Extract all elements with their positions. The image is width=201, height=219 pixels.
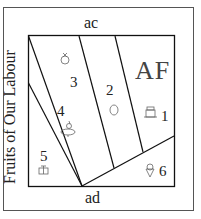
- cake-icon: [144, 107, 157, 117]
- region-number-4: 4: [57, 104, 65, 119]
- region-number-5: 5: [40, 149, 48, 164]
- corner-label: AF: [135, 58, 170, 84]
- lemon-icon: [110, 105, 118, 115]
- seam-line-2: [29, 83, 83, 186]
- ice-cream-icon: [146, 164, 154, 177]
- block-diagram: [0, 0, 201, 219]
- bottom-edge-label: ad: [85, 190, 100, 206]
- seam-line-4: [115, 36, 143, 152]
- seam-line-1: [29, 36, 83, 186]
- gift-icon: [39, 166, 48, 174]
- region-number-2: 2: [106, 83, 114, 98]
- region-number-1: 1: [161, 109, 169, 124]
- region-number-6: 6: [159, 164, 167, 179]
- seam-line-3: [79, 36, 114, 168]
- region-number-3: 3: [70, 75, 78, 90]
- apple-icon: [61, 53, 69, 64]
- side-title: Fruits of Our Labour: [2, 24, 18, 184]
- top-edge-label: ac: [84, 15, 98, 31]
